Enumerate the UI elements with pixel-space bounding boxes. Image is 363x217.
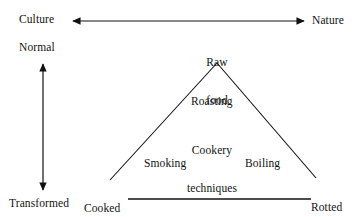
axis-label-normal: Normal <box>19 41 55 54</box>
node-label-smoking: Smoking <box>144 157 186 170</box>
node-label-roasting: Roasting <box>191 95 233 108</box>
node-label-boiling: Boiling <box>245 157 280 170</box>
node-label-cookery-techniques-line1: Cookery <box>184 144 240 157</box>
axis-label-transformed: Transformed <box>9 197 69 210</box>
axis-label-culture: Culture <box>19 13 54 26</box>
figure-canvas: Culture Nature Normal Transformed Raw fo… <box>0 0 363 217</box>
node-label-raw-food: Raw food <box>197 31 237 132</box>
node-label-cooked-food: Cooked food <box>84 177 130 217</box>
node-label-cookery-techniques: Cookery techniques <box>184 119 240 217</box>
diagram-lines <box>0 0 363 217</box>
node-label-cookery-techniques-line2: techniques <box>184 182 240 195</box>
node-label-rotted-food: Rotted food <box>311 176 357 217</box>
node-label-raw-food-line1: Raw <box>197 56 237 69</box>
node-label-rotted-food-line1: Rotted <box>311 201 357 214</box>
axis-label-nature: Nature <box>312 14 344 27</box>
node-label-cooked-food-line1: Cooked <box>84 202 130 215</box>
